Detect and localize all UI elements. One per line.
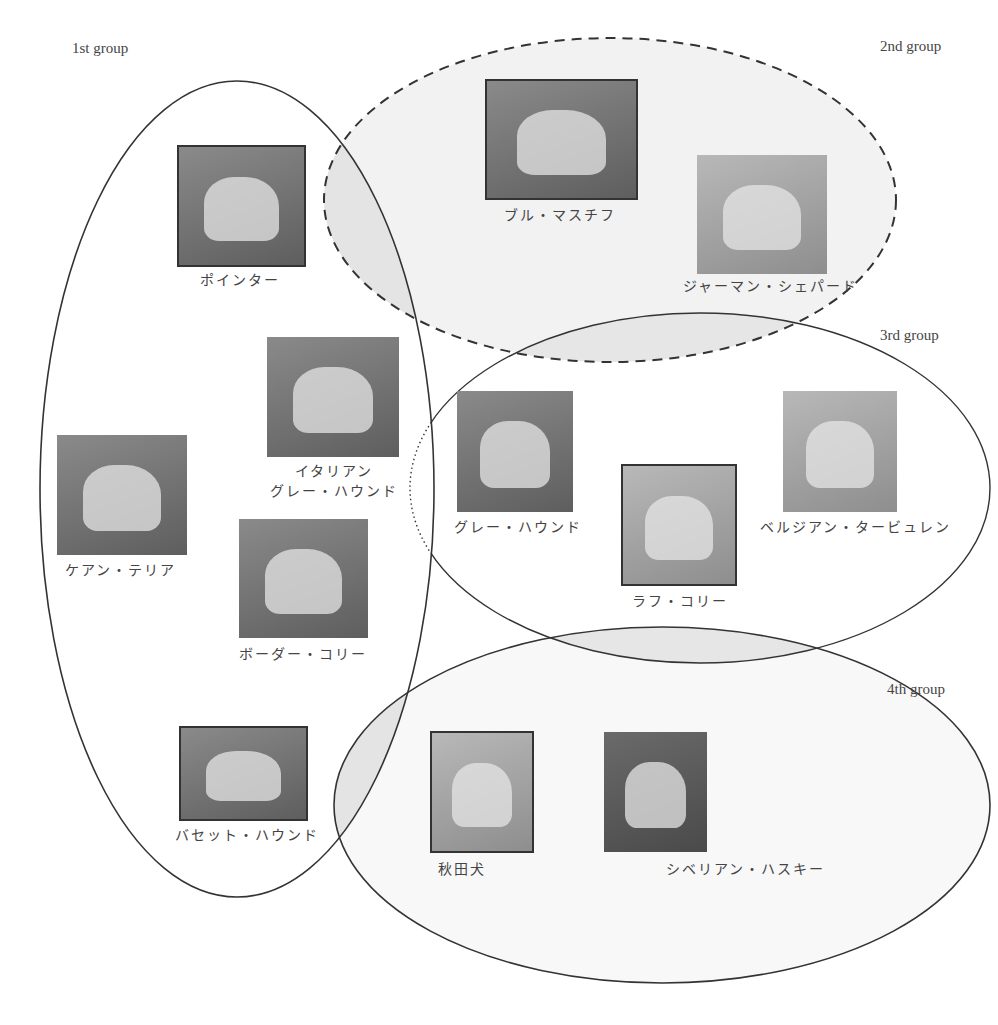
akita-photo	[430, 731, 534, 853]
border-collie-photo	[239, 519, 368, 638]
rough-collie-caption: ラフ・コリー	[632, 592, 728, 610]
cairn-terrier-caption: ケアン・テリア	[65, 561, 176, 579]
siberian-husky-photo	[604, 732, 707, 852]
group-1-label: 1st group	[72, 40, 128, 57]
akita-caption: 秋田犬	[438, 860, 486, 878]
italian-greyhound-caption-line1: イタリアン	[295, 462, 373, 480]
group-3-label: 3rd group	[880, 327, 939, 344]
siberian-husky-caption: シベリアン・ハスキー	[666, 860, 825, 878]
german-shepherd-photo	[697, 155, 827, 274]
bull-mastiff-photo	[485, 79, 638, 200]
border-collie-caption: ボーダー・コリー	[239, 645, 367, 663]
basset-hound-caption: バセット・ハウンド	[175, 826, 319, 844]
greyhound-photo	[457, 391, 573, 512]
greyhound-caption: グレー・ハウンド	[454, 518, 582, 536]
rough-collie-photo	[621, 464, 737, 586]
basset-hound-photo	[179, 726, 308, 821]
italian-greyhound-caption-line2: グレー・ハウンド	[270, 482, 398, 500]
bull-mastiff-caption: ブル・マスチフ	[504, 206, 616, 224]
pointer-photo	[177, 145, 306, 267]
cairn-terrier-photo	[57, 435, 187, 555]
group-2-label: 2nd group	[880, 38, 941, 55]
italian-greyhound-photo	[267, 337, 399, 457]
pointer-caption: ポインター	[200, 271, 280, 289]
group-4-label: 4th group	[887, 681, 945, 698]
belgian-tervuren-photo	[783, 391, 897, 512]
german-shepherd-caption: ジャーマン・シェパード	[683, 277, 858, 295]
belgian-tervuren-caption: ベルジアン・タービュレン	[760, 518, 951, 536]
